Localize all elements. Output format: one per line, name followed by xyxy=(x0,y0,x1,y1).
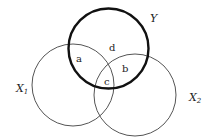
region-b-label: b xyxy=(122,63,128,74)
circle-x1 xyxy=(32,44,114,126)
region-a-label: a xyxy=(76,53,82,64)
label-y: Y xyxy=(150,12,159,25)
venn-diagram: X1 X2 Y a b c d xyxy=(0,0,212,140)
region-d-label: d xyxy=(109,42,116,53)
region-c-label: c xyxy=(104,76,110,87)
label-x2: X2 xyxy=(188,91,202,105)
label-x1: X1 xyxy=(15,82,28,96)
circle-x2 xyxy=(94,54,176,136)
